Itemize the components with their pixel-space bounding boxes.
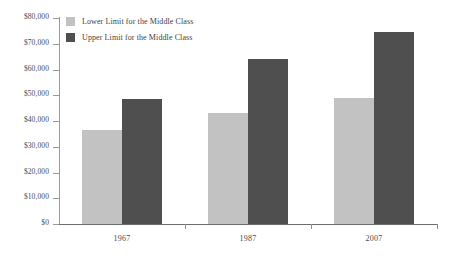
y-axis-tick-label: $70,000 xyxy=(24,38,49,47)
y-axis-tick-label: $10,000 xyxy=(24,192,49,201)
bar-2007-upper-limit xyxy=(374,32,414,224)
y-axis-tick-label: $60,000 xyxy=(24,64,49,73)
x-axis-label-1987: 1987 xyxy=(208,234,288,243)
legend-item-lower-limit: Lower Limit for the Middle Class xyxy=(66,13,193,29)
legend-item-label: Lower Limit for the Middle Class xyxy=(82,17,193,26)
x-axis-label-1967: 1967 xyxy=(82,234,162,243)
y-axis-tick-label: $20,000 xyxy=(24,167,49,176)
y-axis-tick: $0 xyxy=(53,224,59,225)
bar-1967-lower-limit xyxy=(82,130,122,224)
x-axis-tick xyxy=(185,224,186,229)
x-axis-tick xyxy=(311,224,312,229)
x-axis-label-2007: 2007 xyxy=(334,234,414,243)
bar-1987-upper-limit xyxy=(248,59,288,224)
bar-2007-lower-limit xyxy=(334,98,374,224)
y-axis-tick-label: $0 xyxy=(41,218,49,227)
bar-chart: $0$10,000$20,000$30,000$40,000$50,000$60… xyxy=(0,0,457,270)
legend-swatch-icon xyxy=(66,17,75,26)
legend-item-upper-limit: Upper Limit for the Middle Class xyxy=(66,29,193,45)
legend-item-label: Upper Limit for the Middle Class xyxy=(82,33,193,42)
plot-area xyxy=(59,18,437,224)
y-axis-tick-label: $30,000 xyxy=(24,141,49,150)
bar-1967-upper-limit xyxy=(122,99,162,224)
chart-legend: Lower Limit for the Middle ClassUpper Li… xyxy=(66,13,193,45)
x-axis-line xyxy=(59,224,438,225)
bar-1987-lower-limit xyxy=(208,113,248,224)
legend-swatch-icon xyxy=(66,33,75,42)
y-axis-tick-label: $50,000 xyxy=(24,89,49,98)
y-axis-tick-label: $80,000 xyxy=(24,12,49,21)
y-axis-tick-label: $40,000 xyxy=(24,115,49,124)
x-axis-tick xyxy=(437,224,438,229)
